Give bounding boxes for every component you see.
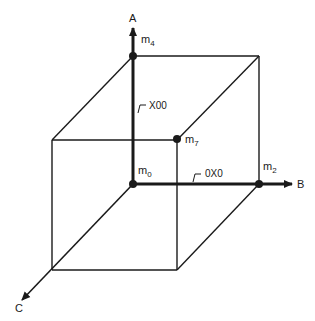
- axis-c: [22, 184, 133, 300]
- vertex-m0-dot: [129, 180, 137, 188]
- vertex-m7-dot: [173, 135, 181, 143]
- edge-diag-bottom-right: [177, 184, 259, 270]
- leader-x00: [138, 105, 146, 113]
- edge-diag-top-right: [177, 56, 259, 140]
- edge-label-0x0: 0X0: [205, 168, 223, 179]
- boolean-cube-diagram: A B C m4 m7 m0 m2 X00 0X0: [0, 0, 315, 321]
- vertex-label-m0: m0: [138, 164, 152, 179]
- vertex-m4-dot: [129, 52, 137, 60]
- axes: [22, 28, 292, 300]
- axis-label-c: C: [15, 302, 23, 314]
- axis-label-b: B: [297, 178, 304, 190]
- vertex-label-m4: m4: [141, 33, 155, 48]
- cube-edges: [52, 56, 259, 270]
- edge-label-x00: X00: [149, 100, 167, 111]
- vertex-label-m7: m7: [185, 133, 199, 148]
- vertex-m2-dot: [255, 180, 263, 188]
- vertex-label-m2: m2: [263, 160, 277, 175]
- leader-0x0: [193, 174, 201, 182]
- axis-label-a: A: [129, 12, 137, 24]
- edge-diag-top-left: [52, 56, 133, 140]
